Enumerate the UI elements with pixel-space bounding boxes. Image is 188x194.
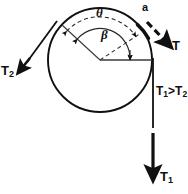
- label-point-a: a: [142, 2, 148, 13]
- rope-arrow-T2: [18, 58, 30, 73]
- label-tension-T1: T1: [160, 170, 173, 185]
- label-tension-T: T: [172, 39, 180, 52]
- label-tension-T2: T2: [1, 64, 14, 79]
- label-angle-beta: β: [101, 28, 108, 41]
- label-T1-base: T: [160, 169, 168, 184]
- rope-line-T2: [27, 21, 57, 62]
- relation-sub-2: 2: [182, 89, 187, 99]
- label-T1-sub: 1: [168, 175, 173, 185]
- label-angle-theta: θ: [96, 6, 103, 19]
- rope-segment-at-a: [137, 25, 148, 39]
- tension-arrow-T: [147, 22, 171, 47]
- physics-figure-capstan: T2 T T1 θ β a T1>T2: [0, 0, 188, 194]
- label-T2-base: T: [1, 63, 9, 78]
- label-T2-sub: 2: [9, 69, 14, 79]
- label-tension-relation: T1>T2: [156, 85, 187, 98]
